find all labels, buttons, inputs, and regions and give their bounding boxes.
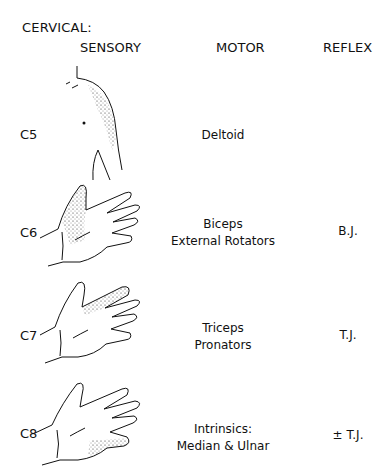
c8-dermatome-shading	[88, 438, 128, 456]
hand-c8-illustration	[35, 383, 140, 465]
hand-c6-illustration	[40, 185, 140, 266]
c7-dermatome-shading	[82, 287, 129, 315]
dermatome-illustrations	[0, 0, 383, 476]
hand-c7-illustration	[40, 282, 140, 363]
c5-dermatome-shading	[88, 85, 116, 150]
shoulder-c5-illustration	[66, 66, 122, 180]
